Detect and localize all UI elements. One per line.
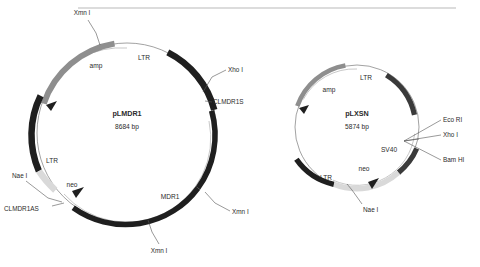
plxsn-inner-arc-neo xyxy=(333,134,415,186)
plmdr1-leader-xmn1-top xyxy=(88,20,100,45)
plmdr1-feature-mdr1 xyxy=(198,111,215,188)
plmdr1-gene-label-mdr1: MDR1 xyxy=(161,193,180,200)
plxsn-feature-neo xyxy=(334,173,399,189)
plasmid-map-figure: pLMDR1 8684 bp amp LTR MDR1 LTR neo Xmn … xyxy=(0,0,480,267)
plmdr1-leader-nae1 xyxy=(26,181,62,202)
plxsn-site-naei: Nae I xyxy=(363,206,378,213)
plmdr1-feature-ltr-top xyxy=(168,52,217,166)
plmdr1-gene-label-ltr-left: LTR xyxy=(46,157,58,164)
plxsn-feature-sv40 xyxy=(399,149,417,173)
plxsn-site-bamhi: Bam HI xyxy=(443,156,465,163)
plxsn-site-xhoi: Xho I xyxy=(443,131,458,138)
plmdr1-site-xmn1-top: Xmn I xyxy=(74,9,91,16)
plmdr1-feature-amp xyxy=(44,44,115,104)
plxsn-gene-label-ltr-top: LTR xyxy=(360,74,372,81)
plmdr1-leader-xmn1-right xyxy=(205,192,230,211)
plmdr1-inner-arc-bottom xyxy=(64,121,211,222)
plmdr1-site-xmn1-right: Xmn I xyxy=(232,208,249,215)
plmdr1-size: 8684 bp xyxy=(115,123,139,131)
plmdr1-title: pLMDR1 xyxy=(112,109,141,118)
plasmid-plmdr1: pLMDR1 8684 bp amp LTR MDR1 LTR neo Xmn … xyxy=(4,9,249,254)
plxsn-gene-label-sv40: SV40 xyxy=(381,146,397,153)
plxsn-gene-label-amp: amp xyxy=(323,86,336,94)
plxsn-gene-label-neo: neo xyxy=(358,165,369,172)
plxsn-size: 5874 bp xyxy=(345,123,369,131)
plmdr1-site-xho1: Xho I xyxy=(228,66,243,73)
plmdr1-site-nae1: Nae I xyxy=(12,172,27,179)
plmdr1-gene-label-neo: neo xyxy=(66,181,77,188)
plmdr1-amp-arrowhead xyxy=(46,101,57,111)
plmdr1-site-clmdr1as: CLMDR1AS xyxy=(4,205,39,212)
plmdr1-feature-ltr-left xyxy=(31,96,40,171)
plmdr1-gene-label-amp: amp xyxy=(90,62,103,70)
plxsn-site-ecori: Eco RI xyxy=(443,116,462,123)
plasmid-plxsn: pLXSN 5874 bp LTR amp SV40 neo LTR Eco R… xyxy=(295,65,465,213)
plmdr1-site-clmdr1s: CLMDR1S xyxy=(213,98,244,105)
plxsn-feature-amp xyxy=(297,66,345,107)
plmdr1-leader-clmdr1as xyxy=(52,203,64,206)
plmdr1-neo-arrowhead xyxy=(72,187,84,198)
plmdr1-gene-label-ltr-top: LTR xyxy=(138,54,150,61)
plxsn-feature-ltr-top xyxy=(386,75,415,146)
plmdr1-site-xmn1-bottom: Xmn I xyxy=(151,247,168,254)
plxsn-title: pLXSN xyxy=(345,109,369,118)
plxsn-gene-label-ltr-bottom: LTR xyxy=(320,174,332,181)
plxsn-amp-arrowhead xyxy=(299,105,309,114)
